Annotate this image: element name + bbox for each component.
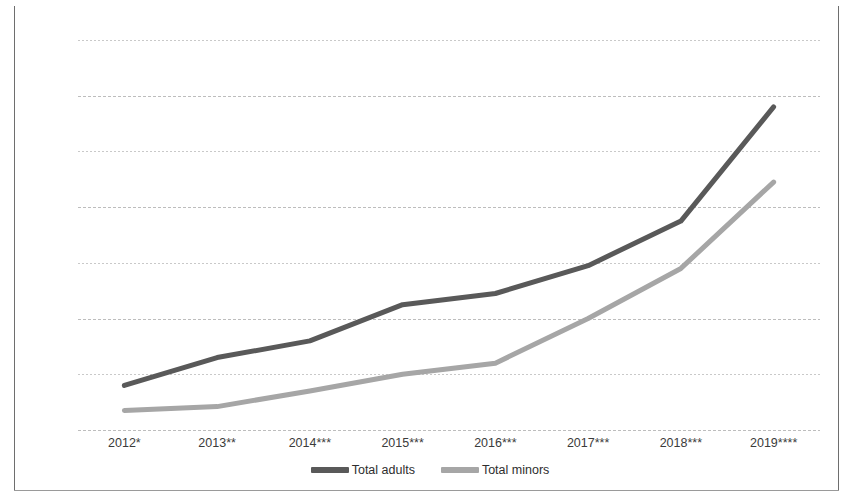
frame-border-bottom [14,490,839,491]
legend-item-0[interactable]: Total adults [311,463,415,477]
chart-container: 01000200030004000500060007000 2012*2013*… [0,0,860,499]
legend-swatch-1 [441,467,479,473]
legend-swatch-0 [311,467,349,473]
data-series-lines [78,40,820,430]
x-tick-label-1: 2013** [198,436,236,450]
chart-legend: Total adultsTotal minors [0,463,860,477]
legend-item-1[interactable]: Total minors [441,463,549,477]
x-tick-label-2: 2014*** [289,436,331,450]
x-tick-label-6: 2018*** [660,436,702,450]
frame-border-left [14,6,15,490]
x-tick-label-4: 2016*** [474,436,516,450]
x-tick-label-0: 2012* [108,436,141,450]
series-line-1 [124,182,773,410]
series-line-0 [124,107,773,386]
gridline-0 [78,430,820,431]
x-tick-label-5: 2017*** [567,436,609,450]
legend-label-1: Total minors [482,463,549,477]
frame-border-right [838,6,839,490]
x-tick-label-3: 2015*** [381,436,423,450]
legend-label-0: Total adults [352,463,415,477]
plot-area: 01000200030004000500060007000 2012*2013*… [78,40,820,430]
x-tick-label-7: 2019**** [750,436,797,450]
